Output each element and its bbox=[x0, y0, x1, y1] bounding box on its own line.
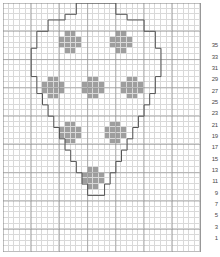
row-number-label: 15 bbox=[212, 156, 218, 162]
chart-cell[interactable] bbox=[195, 246, 201, 252]
row-number-label: 23 bbox=[212, 110, 218, 116]
row-number-axis: 1357911131517192123252729313335 bbox=[201, 3, 220, 252]
row-number-label: 19 bbox=[212, 133, 218, 139]
row-number-label: 7 bbox=[215, 201, 218, 207]
row-number-label: 27 bbox=[212, 88, 218, 94]
row-number-label: 29 bbox=[212, 76, 218, 82]
row-number-label: 31 bbox=[212, 65, 218, 71]
chart-cell-matrix[interactable] bbox=[3, 3, 201, 252]
chart-grid[interactable] bbox=[3, 3, 201, 252]
row-number-label: 11 bbox=[212, 178, 218, 184]
colorwork-chart: 1357911131517192123252729313335 bbox=[0, 0, 220, 257]
row-number-label: 3 bbox=[215, 224, 218, 230]
row-number-label: 13 bbox=[212, 167, 218, 173]
row-number-label: 35 bbox=[212, 42, 218, 48]
row-number-label: 1 bbox=[215, 235, 218, 241]
row-number-label: 9 bbox=[215, 190, 218, 196]
row-number-label: 5 bbox=[215, 212, 218, 218]
row-number-label: 21 bbox=[212, 122, 218, 128]
row-number-label: 17 bbox=[212, 144, 218, 150]
row-number-label: 33 bbox=[212, 54, 218, 60]
row-number-label: 25 bbox=[212, 99, 218, 105]
